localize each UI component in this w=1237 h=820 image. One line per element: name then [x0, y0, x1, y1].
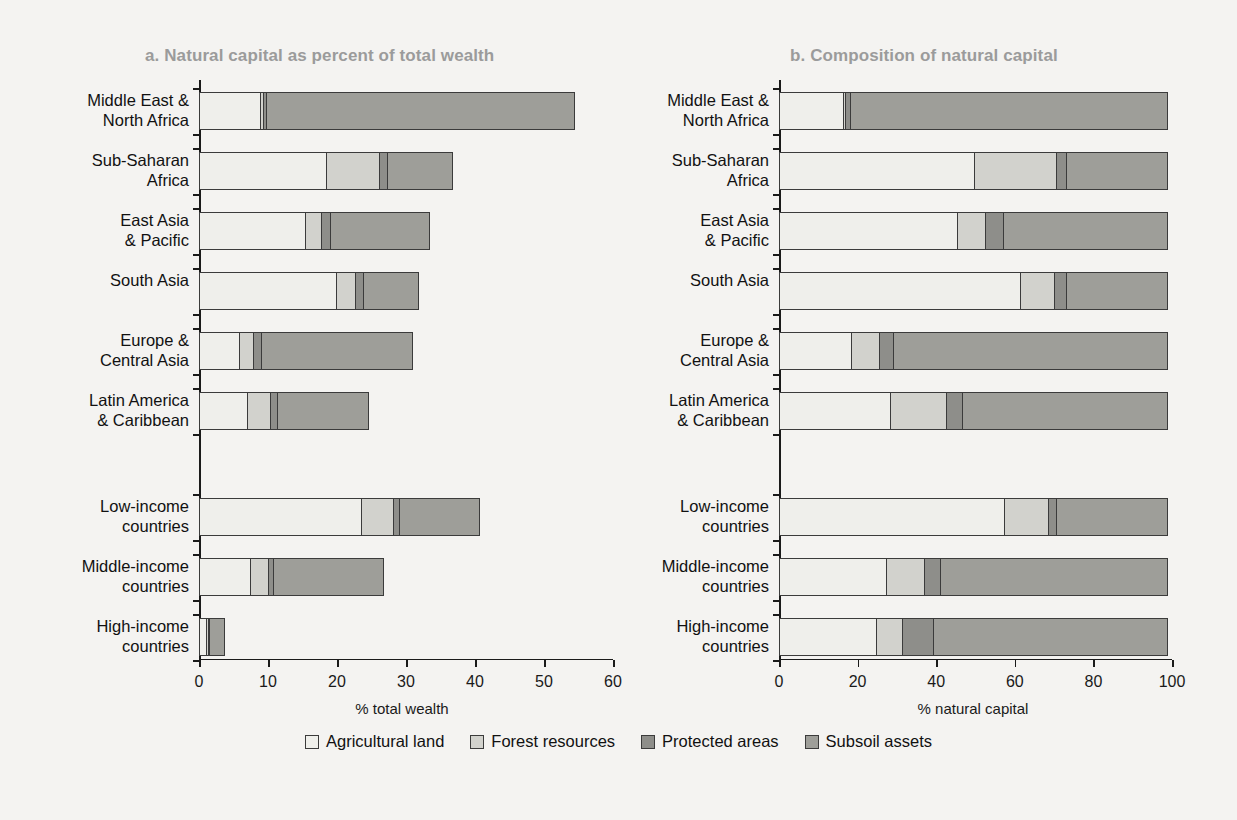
- legend-item-agricultural-land: Agricultural land: [305, 732, 444, 751]
- category-label: Low-incomecountries: [680, 496, 769, 536]
- bar-segment-subsoil-assets: [1003, 212, 1168, 250]
- y-tick: [773, 660, 779, 662]
- y-tick: [773, 88, 779, 90]
- y-tick: [193, 268, 199, 270]
- bar-segment-agricultural-land: [199, 272, 337, 310]
- x-axis-title-b: % natural capital: [918, 700, 1029, 717]
- bar-middle-income-countries: [779, 558, 1168, 596]
- bar-segment-agricultural-land: [779, 272, 1021, 310]
- bar-segment-protected-areas: [985, 212, 1005, 250]
- bar-high-income-countries: [199, 618, 225, 656]
- bar-sub-saharan-africa: [199, 152, 453, 190]
- bar-segment-subsoil-assets: [1066, 272, 1168, 310]
- figure-natural-capital: a. Natural capital as percent of total w…: [0, 0, 1237, 820]
- bar-segment-protected-areas: [946, 392, 964, 430]
- category-label: Latin America& Caribbean: [669, 390, 769, 430]
- category-label-line: Middle East &: [667, 90, 769, 110]
- bar-segment-agricultural-land: [199, 332, 240, 370]
- category-label-line: & Pacific: [120, 230, 189, 250]
- category-label: Europe &Central Asia: [680, 330, 769, 370]
- category-label-line: Middle-income: [662, 556, 769, 576]
- bar-segment-subsoil-assets: [330, 212, 430, 250]
- category-label-line: & Pacific: [700, 230, 769, 250]
- y-tick: [193, 434, 199, 436]
- legend-swatch-icon: [470, 735, 484, 749]
- bar-east-asia-pacific: [199, 212, 430, 250]
- bar-segment-subsoil-assets: [209, 618, 225, 656]
- x-tick-label: 10: [259, 673, 277, 691]
- bar-segment-agricultural-land: [199, 152, 327, 190]
- y-tick: [773, 540, 779, 542]
- bar-segment-forest-resources: [851, 332, 880, 370]
- bar-middle-income-countries: [199, 558, 384, 596]
- bar-segment-forest-resources: [886, 558, 925, 596]
- y-tick: [773, 254, 779, 256]
- bar-segment-subsoil-assets: [933, 618, 1169, 656]
- bar-segment-subsoil-assets: [387, 152, 453, 190]
- y-tick: [773, 374, 779, 376]
- bar-segment-forest-resources: [239, 332, 255, 370]
- category-label-line: High-income: [96, 616, 189, 636]
- bar-middle-east-north-africa: [779, 92, 1168, 130]
- category-label: East Asia& Pacific: [120, 210, 189, 250]
- category-label-line: & Caribbean: [89, 410, 189, 430]
- bar-segment-agricultural-land: [779, 392, 891, 430]
- category-label-line: South Asia: [110, 270, 189, 290]
- y-tick: [773, 148, 779, 150]
- x-tick: [268, 660, 270, 667]
- y-tick: [193, 254, 199, 256]
- bar-segment-forest-resources: [247, 392, 270, 430]
- x-tick: [406, 660, 408, 667]
- legend-item-forest-resources: Forest resources: [470, 732, 615, 751]
- category-label-line: East Asia: [700, 210, 769, 230]
- category-label-line: countries: [680, 516, 769, 536]
- x-tick: [544, 660, 546, 667]
- x-tick-label: 30: [397, 673, 415, 691]
- category-label-line: countries: [82, 576, 189, 596]
- category-label: South Asia: [110, 270, 189, 290]
- bar-segment-protected-areas: [924, 558, 942, 596]
- bar-high-income-countries: [779, 618, 1168, 656]
- bar-south-asia: [779, 272, 1168, 310]
- bar-sub-saharan-africa: [779, 152, 1168, 190]
- bar-segment-subsoil-assets: [940, 558, 1168, 596]
- y-tick: [773, 554, 779, 556]
- y-tick: [193, 88, 199, 90]
- x-tick-label: 60: [1006, 673, 1024, 691]
- y-tick: [773, 494, 779, 496]
- bar-segment-agricultural-land: [199, 498, 363, 536]
- category-label-line: countries: [676, 636, 769, 656]
- category-label-line: South Asia: [690, 270, 769, 290]
- y-tick: [773, 614, 779, 616]
- y-tick: [193, 148, 199, 150]
- x-tick-label: 80: [1084, 673, 1102, 691]
- category-label-line: High-income: [676, 616, 769, 636]
- bar-segment-forest-resources: [890, 392, 947, 430]
- x-tick: [613, 660, 615, 667]
- x-tick-label: 40: [466, 673, 484, 691]
- bar-segment-subsoil-assets: [1056, 498, 1168, 536]
- x-tick: [1172, 660, 1174, 667]
- legend-swatch-icon: [305, 735, 319, 749]
- bar-segment-forest-resources: [250, 558, 269, 596]
- legend-swatch-icon: [805, 735, 819, 749]
- x-axis-title-a: % total wealth: [355, 700, 448, 717]
- bar-segment-forest-resources: [361, 498, 393, 536]
- bar-segment-agricultural-land: [779, 332, 852, 370]
- bar-latin-america-caribbean: [779, 392, 1168, 430]
- category-label: Sub-SaharanAfrica: [92, 150, 189, 190]
- y-tick: [773, 328, 779, 330]
- x-tick-label: 50: [535, 673, 553, 691]
- y-tick: [193, 614, 199, 616]
- legend-label: Forest resources: [491, 732, 615, 751]
- bar-segment-subsoil-assets: [261, 332, 413, 370]
- y-tick: [193, 208, 199, 210]
- x-tick: [779, 660, 781, 667]
- category-label-line: Low-income: [100, 496, 189, 516]
- x-tick: [199, 660, 201, 667]
- y-tick: [193, 374, 199, 376]
- x-tick-label: 20: [849, 673, 867, 691]
- bar-segment-subsoil-assets: [850, 92, 1168, 130]
- category-label: High-incomecountries: [96, 616, 189, 656]
- bar-segment-subsoil-assets: [1066, 152, 1168, 190]
